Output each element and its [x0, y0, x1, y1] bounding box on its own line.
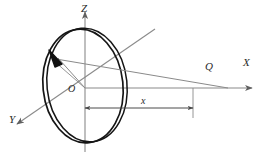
axis-group: [17, 12, 252, 152]
y-axis-line: [17, 29, 155, 124]
diagram-canvas: [0, 0, 257, 158]
distance-x-label: x: [141, 96, 145, 106]
origin-label: O: [68, 84, 75, 94]
x-axis-label: X: [243, 57, 250, 68]
construction-lines: [54, 58, 228, 88]
ring-element-arrow-icon: [49, 50, 62, 67]
field-point-label: Q: [205, 61, 213, 72]
distance-x-dimension: [85, 88, 193, 118]
distance-line: [56, 59, 228, 88]
ring-field-diagram: Z X Y O Q x: [0, 0, 257, 158]
z-axis-label: Z: [81, 3, 87, 14]
y-axis-label: Y: [9, 114, 15, 125]
